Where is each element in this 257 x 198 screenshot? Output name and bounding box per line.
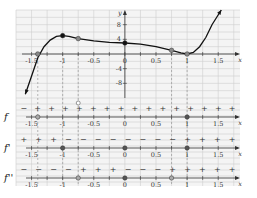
sign-symbol: + [110, 165, 117, 174]
sign-symbol: + [215, 104, 222, 113]
sign-chart-point [185, 146, 189, 150]
x-tick-label: 1 [185, 181, 189, 189]
x-axis-label: x [238, 56, 242, 64]
sign-symbol: − [20, 104, 27, 113]
sign-chart-point [123, 146, 127, 150]
x-tick-label: -0.5 [88, 57, 101, 65]
x-tick-label: 1.5 [213, 57, 223, 65]
sign-symbol: + [201, 104, 208, 113]
sign-symbol: + [145, 104, 152, 113]
sign-chart-label: f' [3, 142, 10, 153]
x-tick-label: 0.5 [151, 151, 161, 159]
sign-symbol: + [35, 135, 42, 144]
x-tick-label: -0.5 [88, 151, 101, 159]
sign-symbol: + [132, 104, 139, 113]
x-tick-label: -1 [59, 151, 65, 159]
x-tick-label: -1 [59, 120, 65, 128]
x-tick-label: 0 [123, 151, 127, 159]
marked-point [60, 33, 65, 38]
sign-symbol: + [48, 104, 55, 113]
sign-symbol: + [199, 135, 206, 144]
x-tick-label: 0.5 [151, 120, 161, 128]
sign-symbol: − [65, 165, 72, 174]
sign-symbol: + [104, 104, 111, 113]
x-axis-label: x [238, 119, 242, 127]
sign-symbol: − [95, 135, 102, 144]
sign-symbol: + [214, 165, 221, 174]
sign-chart-label: f [3, 111, 10, 122]
sign-symbol: + [118, 104, 125, 113]
marked-point [169, 48, 174, 53]
sign-chart-marker [76, 101, 80, 105]
marked-point [35, 52, 40, 57]
sign-symbol: + [80, 165, 87, 174]
sign-chart-point [185, 115, 189, 119]
x-tick-label: 1.5 [213, 151, 223, 159]
y-tick-label: -4 [116, 65, 122, 73]
x-axis-label: x [238, 180, 242, 188]
sign-symbol: − [65, 135, 72, 144]
sign-symbol: + [76, 104, 83, 113]
sign-symbol: + [229, 165, 236, 174]
x-tick-label: -0.5 [88, 120, 101, 128]
sign-chart-label: f'' [3, 172, 13, 183]
sign-symbol: + [20, 135, 27, 144]
calculus-figure: x-1.5-1-0.500.511.5y84-4-8 x-1.5-1-0.500… [0, 0, 257, 198]
sign-chart-point [60, 146, 64, 150]
x-tick-label: 1.5 [213, 181, 223, 189]
x-tick-label: 0 [123, 120, 127, 128]
sign-symbol: + [62, 104, 69, 113]
x-tick-label: -1.5 [25, 181, 38, 189]
sign-symbol: + [229, 104, 236, 113]
x-tick-label: 1.5 [213, 120, 223, 128]
marked-point [76, 36, 81, 41]
x-tick-label: -1 [59, 181, 65, 189]
marked-point [185, 52, 190, 57]
x-tick-label: -1 [59, 57, 65, 65]
sign-symbol: + [95, 165, 102, 174]
x-tick-label: -1.5 [25, 120, 38, 128]
x-tick-label: 1 [185, 151, 189, 159]
x-tick-label: -0.5 [88, 181, 101, 189]
x-tick-label: -1.5 [25, 151, 38, 159]
sign-symbol: − [154, 135, 161, 144]
sign-symbol: − [125, 165, 132, 174]
x-tick-label: 0 [123, 181, 127, 189]
sign-symbol: + [184, 165, 191, 174]
sign-chart-point [76, 176, 80, 180]
x-tick-label: 1 [185, 120, 189, 128]
sign-symbol: − [154, 165, 161, 174]
y-tick-label: -8 [116, 79, 122, 87]
x-tick-label: 1 [185, 57, 189, 65]
y-tick-label: 8 [117, 21, 121, 29]
sign-chart-point [123, 176, 127, 180]
sign-symbol: + [50, 135, 57, 144]
sign-symbol: + [159, 104, 166, 113]
sign-symbol: + [90, 104, 97, 113]
sign-symbol: − [110, 135, 117, 144]
sign-symbol: + [173, 104, 180, 113]
sign-symbol: + [199, 165, 206, 174]
sign-symbol: − [50, 165, 57, 174]
x-tick-label: 0.5 [151, 181, 161, 189]
sign-symbol: − [35, 165, 42, 174]
marked-point [123, 41, 128, 46]
sign-chart-point [169, 176, 173, 180]
sign-symbol: − [80, 135, 87, 144]
x-axis-label: x [238, 150, 242, 158]
sign-symbol: + [229, 135, 236, 144]
sign-chart-point [36, 115, 40, 119]
sign-symbol: − [169, 135, 176, 144]
sign-symbol: + [187, 104, 194, 113]
sign-symbol: + [34, 104, 41, 113]
sign-symbol: + [169, 165, 176, 174]
sign-symbol: − [140, 135, 147, 144]
sign-symbol: − [125, 135, 132, 144]
x-tick-label: 0.5 [151, 57, 161, 65]
sign-symbol: − [140, 165, 147, 174]
sign-symbol: − [20, 165, 27, 174]
y-axis-label: y [117, 9, 122, 17]
sign-symbol: + [214, 135, 221, 144]
sign-symbol: + [184, 135, 191, 144]
